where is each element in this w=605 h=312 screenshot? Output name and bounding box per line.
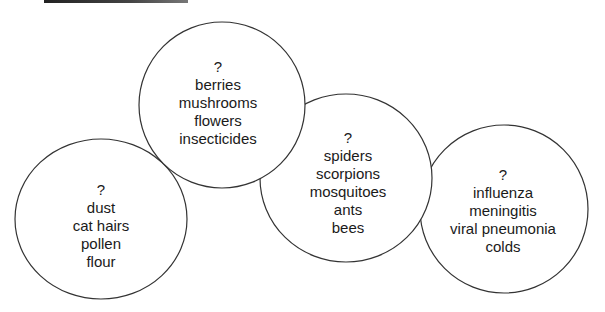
bubble-text-infections: ? influenza meningitis viral pneumonia c… <box>450 166 556 256</box>
bubble-item: flowers <box>179 112 257 130</box>
bubble-item: berries <box>179 76 257 94</box>
bubble-item: bees <box>310 219 387 237</box>
bubble-item: spiders <box>310 147 387 165</box>
bubble-text-allergens: ? dust cat hairs pollen flour <box>73 181 130 271</box>
bubble-text-poisons: ? berries mushrooms flowers insecticides <box>179 58 257 148</box>
bubble-item: insecticides <box>179 130 257 148</box>
bubble-item: meningitis <box>450 202 556 220</box>
bubble-item: influenza <box>450 184 556 202</box>
bubble-item: pollen <box>73 235 130 253</box>
bubble-item: colds <box>450 238 556 256</box>
bubble-item: dust <box>73 199 130 217</box>
bubble-item: viral pneumonia <box>450 220 556 238</box>
bubble-heading: ? <box>179 58 257 76</box>
bubble-item: cat hairs <box>73 217 130 235</box>
bubble-text-stinging-creatures: ? spiders scorpions mosquitoes ants bees <box>310 129 387 237</box>
bubble-heading: ? <box>310 129 387 147</box>
bubble-item: mosquitoes <box>310 183 387 201</box>
bubble-item: scorpions <box>310 165 387 183</box>
bubble-item: flour <box>73 253 130 271</box>
bubble-heading: ? <box>73 181 130 199</box>
bubble-heading: ? <box>450 166 556 184</box>
bubble-item: ants <box>310 201 387 219</box>
bubble-item: mushrooms <box>179 94 257 112</box>
